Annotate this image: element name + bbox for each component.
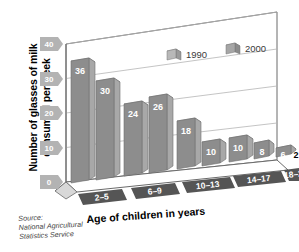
bar-value-2000-14-17: 8 xyxy=(259,147,264,157)
bar-value-1990-6-9: 24 xyxy=(128,109,138,119)
y-tick-label-20: 20 xyxy=(45,109,54,118)
bar-1990-2-5: 36 xyxy=(71,58,95,183)
y-tick-20: 20 xyxy=(40,106,63,120)
legend-swatch-1990-icon xyxy=(167,49,181,60)
legend-label-2000: 2000 xyxy=(245,43,266,54)
bar-1990-6-9: 24 xyxy=(124,101,148,176)
bar-value-1990-14-17: 10 xyxy=(233,143,243,153)
bar-value-2000-2-5: 30 xyxy=(100,86,110,96)
y-tick-40: 40 xyxy=(40,37,63,51)
bar-2000-18-21: 2 xyxy=(293,150,298,160)
bar-value-1990-10-13: 18 xyxy=(181,126,191,136)
bar-chart: Number of glasses of milk consumed per w… xyxy=(0,0,299,252)
category-label-2-5: 2–5 xyxy=(94,191,109,202)
legend-label-1990: 1990 xyxy=(186,49,207,60)
y-tick-label-40: 40 xyxy=(45,40,54,49)
source-note: Source: National Agricultural Statistics… xyxy=(18,211,83,242)
bar-1990-10-13: 18 xyxy=(177,118,201,169)
y-tick-30: 30 xyxy=(40,72,63,86)
legend-item-1990[interactable]: 1990 xyxy=(167,49,207,60)
bar-value-2000-10-13: 10 xyxy=(206,147,216,157)
category-label-18-21: 18–21 xyxy=(283,168,299,180)
y-tick-label-30: 30 xyxy=(45,75,54,84)
bar-value-1990-18-21: 6 xyxy=(280,150,285,160)
bar-value-2000-18-21: 2 xyxy=(293,150,298,160)
y-tick-label-10: 10 xyxy=(45,144,54,153)
y-tick-label-0: 0 xyxy=(47,178,52,187)
category-label-6-9: 6–9 xyxy=(147,185,162,196)
category-tab-18-21: 18–21 xyxy=(283,168,299,181)
legend-swatch-2000-icon xyxy=(226,43,240,54)
bar-2000-2-5: 30 xyxy=(96,78,120,180)
legend-item-2000[interactable]: 2000 xyxy=(226,43,266,54)
bar-value-1990-2-5: 36 xyxy=(75,66,85,76)
bar-value-2000-6-9: 26 xyxy=(153,102,163,112)
bar-2000-6-9: 26 xyxy=(149,94,173,173)
y-tick-10: 10 xyxy=(40,141,63,155)
y-axis-ticks: 40 30 20 10 0 xyxy=(40,37,63,189)
